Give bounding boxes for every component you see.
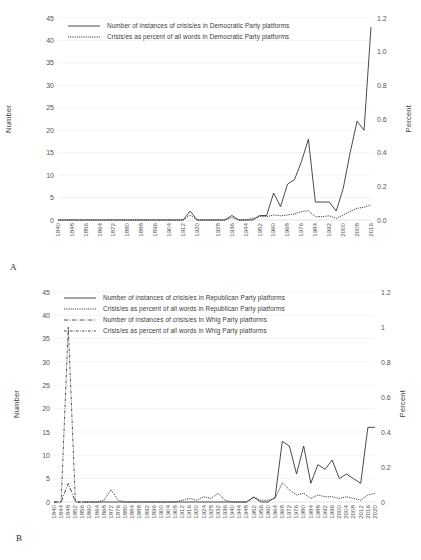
y2-axis-tick-label: 0.6 <box>381 394 401 401</box>
x-axis-tick-label: 1912 <box>180 223 186 237</box>
y-axis-tick-label: 40 <box>32 312 50 319</box>
series-line <box>58 27 371 220</box>
x-axis-tick-label: 1872 <box>108 505 114 519</box>
y-axis-tick-label: 35 <box>32 335 50 342</box>
x-axis-tick-label: 1840 <box>51 505 57 519</box>
y-axis-tick-label: 20 <box>36 127 54 134</box>
x-axis-tick-label: 1956 <box>258 505 264 519</box>
x-axis-tick-label: 1896 <box>152 223 158 237</box>
series-line <box>83 483 375 502</box>
x-axis-tick-label: 1888 <box>138 223 144 237</box>
x-axis-tick-label: 1980 <box>300 505 306 519</box>
x-axis-tick-label: 1868 <box>101 505 107 519</box>
x-axis-tick-label: 1888 <box>136 505 142 519</box>
legend-swatch-dotted-icon <box>66 33 102 41</box>
y-axis-tick-label: 45 <box>32 289 50 296</box>
y-axis-tick-label: 15 <box>36 149 54 156</box>
legend-item: Crisis/es as percent of all words in Rep… <box>62 303 285 314</box>
x-axis-tick-label: 2016 <box>368 223 374 237</box>
y2-axis-tick-label: 0.8 <box>381 359 401 366</box>
x-axis-tick-label: 1920 <box>194 223 200 237</box>
x-axis-tick-label: 1856 <box>83 223 89 237</box>
legend-item-label: Crisis/es as percent of all words in Rep… <box>103 305 285 312</box>
x-axis-tick-label: 1864 <box>94 505 100 519</box>
x-axis-tick-label: 1964 <box>272 505 278 519</box>
x-axis-tick-label: 1948 <box>243 505 249 519</box>
x-axis-tick-label: 1944 <box>243 223 249 237</box>
legend-swatch-solid-icon <box>62 294 98 302</box>
x-axis-tick-label: 1904 <box>166 223 172 237</box>
x-axis-tick-label: 1984 <box>308 505 314 519</box>
panel-a-plot-area <box>0 0 421 282</box>
y-axis-tick-label: 10 <box>32 452 50 459</box>
x-axis-tick-label: 1968 <box>284 223 290 237</box>
legend-item-label: Crisis/es as percent of all words in Dem… <box>107 33 289 40</box>
legend-item: Crisis/es as percent of all words in Dem… <box>66 31 289 42</box>
x-axis-tick-label: 1952 <box>251 505 257 519</box>
legend-swatch-dashdot-icon <box>62 316 98 324</box>
legend-swatch-dotted-icon <box>62 305 98 313</box>
x-axis-tick-label: 1992 <box>322 505 328 519</box>
x-axis-tick-label: 1848 <box>69 223 75 237</box>
x-axis-tick-label: 1960 <box>265 505 271 519</box>
x-axis-tick-label: 2008 <box>354 223 360 237</box>
y-axis-tick-label: 0 <box>32 499 50 506</box>
series-line <box>58 205 371 220</box>
panel-b-legend: Number of instances of crisis/es in Repu… <box>62 292 285 336</box>
x-axis-tick-label: 1952 <box>257 223 263 237</box>
y-axis-tick-label: 0 <box>36 217 54 224</box>
chart-panel-a: A Number Percent Number of instances of … <box>0 0 421 282</box>
x-axis-tick-label: 2012 <box>358 505 364 519</box>
y-axis-tick-label: 40 <box>36 37 54 44</box>
y2-axis-tick-label: 1.2 <box>381 289 401 296</box>
x-axis-tick-label: 1936 <box>229 223 235 237</box>
legend-item: Crisis/es as percent of all words in Whi… <box>62 325 285 336</box>
x-axis-tick-label: 1904 <box>165 505 171 519</box>
x-axis-tick-label: 1984 <box>312 223 318 237</box>
series-line <box>83 427 375 502</box>
y-axis-tick-label: 20 <box>32 405 50 412</box>
x-axis-tick-label: 1960 <box>270 223 276 237</box>
legend-item: Number of instances of crisis/es in Demo… <box>66 20 289 31</box>
y2-axis-tick-label: 0.6 <box>377 116 397 123</box>
legend-item: Number of instances of crisis/es in Whig… <box>62 314 285 325</box>
legend-item: Number of instances of crisis/es in Repu… <box>62 292 285 303</box>
y2-axis-tick-label: 1 <box>381 324 401 331</box>
figure-container: A Number Percent Number of instances of … <box>0 0 421 560</box>
x-axis-tick-label: 1976 <box>298 223 304 237</box>
series-line <box>54 327 83 502</box>
legend-item-label: Number of instances of crisis/es in Repu… <box>103 294 285 301</box>
y2-axis-tick-label: 1.2 <box>377 15 397 22</box>
y-axis-tick-label: 45 <box>36 15 54 22</box>
y-axis-tick-label: 10 <box>36 172 54 179</box>
y2-axis-tick-label: 0.4 <box>377 149 397 156</box>
x-axis-tick-label: 1844 <box>58 505 64 519</box>
x-axis-tick-label: 1872 <box>110 223 116 237</box>
x-axis-tick-label: 1920 <box>193 505 199 519</box>
y2-axis-tick-label: 0.0 <box>377 217 397 224</box>
legend-swatch-solid-icon <box>66 22 102 30</box>
x-axis-tick-label: 1896 <box>151 505 157 519</box>
y2-axis-tick-label: 0 <box>381 499 401 506</box>
panel-a-legend: Number of instances of crisis/es in Demo… <box>66 20 289 42</box>
series-line <box>54 483 83 502</box>
y2-axis-tick-label: 1.0 <box>377 48 397 55</box>
x-axis-tick-label: 1892 <box>144 505 150 519</box>
x-axis-tick-label: 1924 <box>201 505 207 519</box>
y2-axis-tick-label: 0.4 <box>381 429 401 436</box>
y-axis-tick-label: 5 <box>32 475 50 482</box>
x-axis-tick-label: 1928 <box>215 223 221 237</box>
legend-item-label: Crisis/es as percent of all words in Whi… <box>103 327 267 334</box>
x-axis-tick-label: 1864 <box>97 223 103 237</box>
x-axis-tick-label: 2020 <box>372 505 378 519</box>
x-axis-tick-label: 1880 <box>124 223 130 237</box>
legend-item-label: Number of instances of crisis/es in Demo… <box>107 22 289 29</box>
chart-panel-b: B Number Percent Number of instances of … <box>0 282 421 560</box>
x-axis-tick-label: 1992 <box>326 223 332 237</box>
x-axis-tick-label: 1988 <box>315 505 321 519</box>
x-axis-tick-label: 1860 <box>86 505 92 519</box>
y-axis-tick-label: 35 <box>36 59 54 66</box>
y-axis-tick-label: 25 <box>32 382 50 389</box>
y2-axis-tick-label: 0.2 <box>381 464 401 471</box>
x-axis-tick-label: 1928 <box>208 505 214 519</box>
